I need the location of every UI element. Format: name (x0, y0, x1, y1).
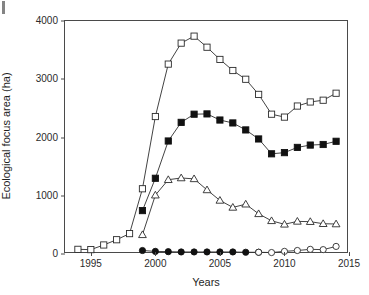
open-triangle-series-marker (242, 200, 250, 207)
open-square-series-marker (230, 67, 236, 73)
y-tick-mark-3000 (61, 79, 65, 80)
open-circle-series-marker (256, 249, 262, 255)
x-axis-label: Years (192, 276, 220, 288)
filled-square-series-marker (307, 142, 313, 148)
x-tick-mark-2005 (220, 252, 221, 256)
filled-square-series-marker (294, 144, 300, 150)
open-triangle-series-marker (293, 218, 301, 225)
filled-circle-series-marker (191, 249, 197, 255)
plot-area (65, 21, 347, 252)
open-square-series-marker (101, 242, 107, 248)
x-tick-mark-2000 (155, 252, 156, 256)
filled-square-series-marker (256, 136, 262, 142)
open-triangle-series-marker (255, 210, 263, 217)
open-circle-series-marker (320, 247, 326, 253)
filled-square-series (139, 111, 339, 214)
filled-circle-series-marker (243, 249, 249, 255)
open-square-series (75, 33, 339, 253)
open-square-series-marker (114, 237, 120, 243)
open-triangle-series-marker (177, 174, 185, 181)
filled-square-series-marker (281, 150, 287, 156)
filled-square-series-marker (139, 208, 145, 214)
filled-square-series-marker (243, 127, 249, 133)
y-tick-mark-4000 (61, 21, 65, 22)
open-triangle-series-marker (306, 218, 314, 225)
filled-square-series-line (142, 114, 336, 211)
series-layer (65, 21, 349, 254)
filled-square-series-marker (333, 138, 339, 144)
open-square-series-marker (152, 113, 158, 119)
open-circle-series-marker (307, 246, 313, 252)
open-triangle-series-marker (139, 231, 147, 238)
filled-square-series-marker (178, 119, 184, 125)
y-tick-mark-2000 (61, 137, 65, 138)
open-square-series-marker (333, 90, 339, 96)
filled-square-series-marker (320, 141, 326, 147)
open-square-series-marker (320, 97, 326, 103)
filled-square-series-marker (165, 138, 171, 144)
filled-square-series-marker (191, 111, 197, 117)
page-edge-artifact (2, 1, 5, 14)
figure-container: Ecological focus area (ha) Years 0100020… (0, 0, 369, 295)
y-tick-mark-1000 (61, 195, 65, 196)
open-triangle-series-marker (216, 197, 224, 204)
x-tick-mark-2015 (349, 252, 350, 256)
y-tick-mark-0 (61, 254, 65, 255)
x-tick-mark-2010 (284, 252, 285, 256)
x-tick-mark-1995 (91, 252, 92, 256)
filled-square-series-marker (204, 111, 210, 117)
open-triangle-series (139, 174, 340, 237)
open-circle-series (256, 243, 340, 255)
open-triangle-series-marker (332, 220, 340, 227)
open-square-series-marker (191, 33, 197, 39)
filled-square-series-marker (217, 117, 223, 123)
open-triangle-series-line (142, 178, 336, 235)
plot-frame: 0100020003000400019952000200520102015 (64, 20, 348, 253)
y-axis-label: Ecological focus area (ha) (0, 72, 12, 199)
open-circle-series-marker (333, 243, 339, 249)
filled-square-series-marker (152, 175, 158, 181)
filled-square-series-marker (230, 120, 236, 126)
open-triangle-series-marker (268, 217, 276, 224)
open-square-series-marker (294, 103, 300, 109)
open-square-series-marker (281, 114, 287, 120)
open-square-series-marker (307, 99, 313, 105)
filled-circle-series-marker (178, 249, 184, 255)
filled-square-series-marker (268, 151, 274, 157)
open-square-series-marker (256, 91, 262, 97)
open-square-series-marker (126, 231, 132, 237)
open-square-series-marker (165, 61, 171, 67)
open-square-series-marker (139, 186, 145, 192)
open-square-series-marker (178, 40, 184, 46)
open-square-series-marker (268, 111, 274, 117)
open-square-series-marker (204, 44, 210, 50)
open-square-series-marker (243, 76, 249, 82)
open-square-series-marker (217, 56, 223, 62)
